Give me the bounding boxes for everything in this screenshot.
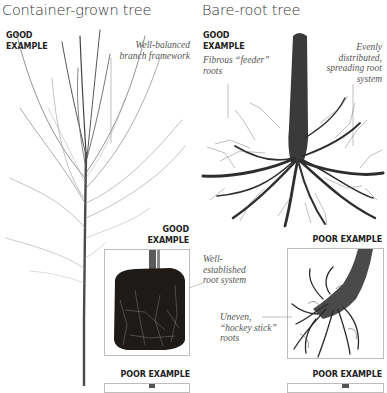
tag-line: GOOD — [130, 225, 189, 236]
note-line: root system — [203, 275, 283, 286]
leader-line-hockey — [262, 312, 294, 318]
hockey-stick-roots-image — [288, 249, 384, 359]
note-line: “hockey stick” — [220, 323, 300, 334]
rootball-image — [105, 250, 190, 356]
note-line: roots — [220, 333, 300, 344]
poor-example-tag-bareroot-2: POOR EXAMPLE — [290, 370, 382, 381]
hockey-stick-photo-frame — [287, 248, 384, 359]
tag-line: EXAMPLE — [130, 236, 189, 247]
rootball-photo-frame — [104, 249, 190, 356]
well-established-note: Well- established root system — [203, 254, 283, 286]
poor-bareroot-photo-frame — [287, 383, 384, 393]
poor-example-tag-container: POOR EXAMPLE — [110, 370, 190, 381]
poor-container-photo-frame — [104, 383, 190, 393]
note-line: Well- — [203, 254, 283, 265]
good-example-tag-rootball: GOOD EXAMPLE — [130, 225, 189, 246]
leader-line-rootball — [189, 280, 205, 290]
bare-root-title: Bare-root tree — [202, 2, 300, 18]
poor-example-tag-bareroot-1: POOR EXAMPLE — [290, 235, 382, 246]
note-line: established — [203, 265, 283, 276]
bare-root-tree-illustration — [195, 28, 387, 228]
container-grown-title: Container-grown tree — [2, 2, 151, 18]
